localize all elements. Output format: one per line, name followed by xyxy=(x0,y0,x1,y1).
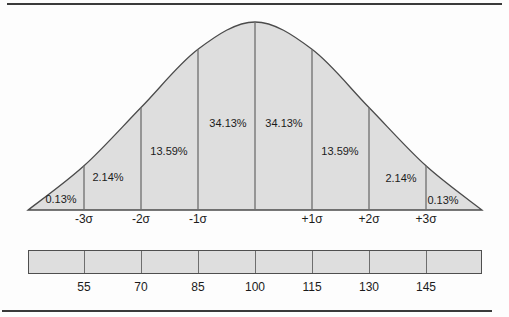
segment-percent-label: 0.13% xyxy=(29,192,93,206)
sigma-axis-label: -1σ xyxy=(176,212,220,226)
iq-tick-label: 115 xyxy=(290,280,334,294)
normal-distribution-figure: 0.13% 2.14% 13.59% 34.13% 34.13% 13.59% … xyxy=(0,0,509,317)
iq-scale-divider xyxy=(84,251,86,273)
segment-percent-label: 34.13% xyxy=(196,116,260,130)
iq-scale-divider xyxy=(369,251,371,273)
iq-scale-divider xyxy=(426,251,428,273)
segment-percent-label: 13.59% xyxy=(137,144,201,158)
iq-scale-divider xyxy=(141,251,143,273)
iq-tick-label: 55 xyxy=(62,280,106,294)
iq-tick-label: 85 xyxy=(176,280,220,294)
iq-scale-divider xyxy=(198,251,200,273)
segment-percent-label: 0.13% xyxy=(411,193,475,207)
segment-percent-label: 34.13% xyxy=(252,116,316,130)
iq-scale-bar xyxy=(28,250,482,274)
sigma-axis-label: -2σ xyxy=(119,212,163,226)
iq-tick-label: 100 xyxy=(233,280,277,294)
segment-percent-label: 2.14% xyxy=(76,170,140,184)
iq-tick-label: 70 xyxy=(119,280,163,294)
sigma-axis-label: -3σ xyxy=(62,212,106,226)
top-rule xyxy=(7,3,502,5)
iq-scale-divider xyxy=(255,251,257,273)
sigma-axis-label: +3σ xyxy=(404,212,448,226)
iq-scale-divider xyxy=(312,251,314,273)
bottom-rule xyxy=(2,310,492,312)
segment-percent-label: 2.14% xyxy=(369,171,433,185)
iq-tick-label: 145 xyxy=(404,280,448,294)
segment-percent-label: 13.59% xyxy=(308,144,372,158)
iq-tick-label: 130 xyxy=(347,280,391,294)
sigma-axis-label: +1σ xyxy=(290,212,334,226)
sigma-axis-label: +2σ xyxy=(347,212,391,226)
